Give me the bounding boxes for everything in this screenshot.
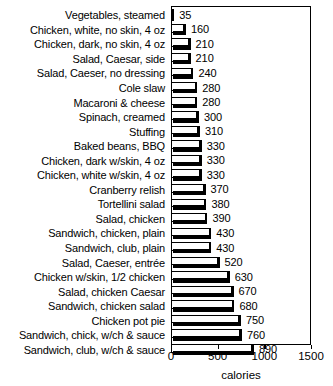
bar-container: 210 — [171, 52, 333, 67]
bar-end-cap — [197, 126, 200, 137]
bar-value-label: 210 — [196, 52, 214, 67]
bar-end-cap — [199, 155, 202, 166]
bar-end-cap — [199, 140, 202, 151]
bar-shadow — [173, 322, 240, 326]
bar-shadow — [173, 264, 218, 268]
bar-shadow — [173, 176, 201, 180]
bar-end-cap — [188, 53, 191, 64]
bar-value-label: 160 — [191, 23, 209, 38]
bar-shadow — [173, 45, 189, 49]
bar-shadow — [173, 118, 198, 122]
bar-end-cap — [209, 228, 212, 239]
category-label: Salad, chicken Caesar — [0, 284, 168, 299]
bar-container: 760 — [171, 328, 333, 343]
bar-shadow — [173, 133, 199, 137]
bar-row: Chicken w/skin, 1/2 chicken630 — [0, 270, 333, 285]
bar-value-label: 240 — [198, 66, 216, 81]
bar-row: Sandwich, club, plain430 — [0, 241, 333, 256]
category-label: Salad, Caeser, entrée — [0, 255, 168, 270]
bar-value-label: 430 — [216, 241, 234, 256]
bar-value-label: 210 — [196, 37, 214, 52]
bar-row: Salad, Caeser, no dressing240 — [0, 66, 333, 81]
bar-value-label: 330 — [207, 168, 225, 183]
category-label: Vegetables, steamed — [0, 8, 168, 23]
bar-row: Sandwich, chick, w/ch & sauce760 — [0, 328, 333, 343]
bar-container: 390 — [171, 212, 333, 227]
x-axis-tick — [218, 345, 219, 349]
category-label: Chicken, dark w/skin, 4 oz — [0, 153, 168, 168]
category-label: Chicken pot pie — [0, 313, 168, 328]
bar-shadow — [173, 235, 210, 239]
bar-container: 240 — [171, 66, 333, 81]
bar-row: Tortellini salad380 — [0, 197, 333, 212]
bar-end-cap — [199, 169, 202, 180]
bar-end-cap — [191, 68, 194, 79]
bar-value-label: 750 — [246, 313, 264, 328]
bar-end-cap — [204, 199, 207, 210]
bar-shadow — [173, 104, 196, 108]
bar-end-cap — [196, 111, 199, 122]
bar-container: 430 — [171, 226, 333, 241]
bar-end-cap — [227, 271, 230, 282]
bar-shadow — [173, 74, 192, 78]
bar-row: Salad, Caesar, side210 — [0, 52, 333, 67]
bar-shadow — [173, 89, 196, 93]
bar-value-label: 380 — [211, 197, 229, 212]
bar-row: Chicken, dark, no skin, 4 oz210 — [0, 37, 333, 52]
bar-value-label: 35 — [179, 8, 191, 23]
bar-container: 670 — [171, 284, 333, 299]
bar-shadow — [173, 147, 201, 151]
bar-end-cap — [188, 38, 191, 49]
category-label: Chicken, dark, no skin, 4 oz — [0, 37, 168, 52]
x-axis-tick-label: 1500 — [298, 350, 324, 362]
category-label: Stuffing — [0, 124, 168, 139]
bar-container: 310 — [171, 124, 333, 139]
bar-row: Chicken, dark w/skin, 4 oz330 — [0, 153, 333, 168]
category-label: Chicken w/skin, 1/2 chicken — [0, 270, 168, 285]
bar-shadow — [173, 162, 201, 166]
bar-end-cap — [232, 300, 235, 311]
bar-shadow — [173, 205, 205, 209]
bar-value-label: 520 — [225, 255, 243, 270]
bar-end-cap — [183, 24, 186, 35]
bar-row: Chicken pot pie750 — [0, 313, 333, 328]
bar-shadow — [173, 249, 210, 253]
category-label: Sandwich, club, plain — [0, 241, 168, 256]
x-axis-tick-label: 1000 — [252, 350, 278, 362]
bar-end-cap — [231, 286, 234, 297]
bar-value-label: 680 — [239, 299, 257, 314]
category-label: Tortellini salad — [0, 197, 168, 212]
bar-shadow — [173, 60, 189, 64]
category-label: Sandwich, chick, w/ch & sauce — [0, 328, 168, 343]
category-label: Baked beans, BBQ — [0, 139, 168, 154]
category-label: Chicken, white w/skin, 4 oz — [0, 168, 168, 183]
category-label: Sandwich, club, w/ch & sauce — [0, 343, 168, 358]
bar-row: Sandwich, chicken salad680 — [0, 299, 333, 314]
bar-container: 750 — [171, 313, 333, 328]
bar-end-cap — [195, 82, 198, 93]
x-axis-tick-label: 500 — [208, 350, 227, 362]
bar-container: 160 — [171, 23, 333, 38]
x-axis-title: calories — [171, 369, 311, 381]
category-label: Cole slaw — [0, 81, 168, 96]
bar-shadow — [173, 293, 232, 297]
bar-row: Cranberry relish370 — [0, 183, 333, 198]
bar-row: Sandwich, chicken, plain430 — [0, 226, 333, 241]
bar-row: Cole slaw280 — [0, 81, 333, 96]
bar-container: 370 — [171, 183, 333, 198]
category-label: Salad, Caesar, side — [0, 52, 168, 67]
bar-end-cap — [172, 9, 175, 20]
bar-end-cap — [239, 329, 242, 340]
category-label: Spinach, creamed — [0, 110, 168, 125]
bar-container: 520 — [171, 255, 333, 270]
category-label: Salad, chicken — [0, 212, 168, 227]
category-label: Salad, Caeser, no dressing — [0, 66, 168, 81]
bar-container: 630 — [171, 270, 333, 285]
bar-value-label: 430 — [216, 226, 234, 241]
x-axis-tick — [311, 345, 312, 349]
bar-row: Baked beans, BBQ330 — [0, 139, 333, 154]
category-label: Macaroni & cheese — [0, 95, 168, 110]
bar-shadow — [173, 307, 233, 311]
bar-container: 380 — [171, 197, 333, 212]
bar-end-cap — [238, 315, 241, 326]
